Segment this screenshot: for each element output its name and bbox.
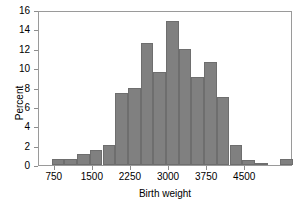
y-tick-label: 4 — [24, 122, 30, 132]
x-tick-label: 1500 — [81, 172, 103, 182]
histogram-bar — [115, 93, 128, 165]
histogram-bar — [217, 97, 230, 165]
y-tick-label: 2 — [24, 142, 30, 152]
histogram-bar — [128, 88, 141, 166]
plot-area — [38, 11, 292, 166]
x-axis-title: Birth weight — [38, 188, 292, 199]
x-tick-mark — [54, 166, 55, 170]
histogram-bar — [242, 160, 255, 165]
histogram-bar — [141, 43, 154, 165]
histogram-bar — [230, 145, 243, 165]
x-tick-label: 3000 — [157, 172, 179, 182]
histogram-bar — [103, 145, 116, 165]
x-tick-mark — [168, 166, 169, 170]
histogram-figure: Percent 0246810121416 750150022503000375… — [0, 0, 306, 205]
histogram-bar — [52, 159, 65, 165]
bars-group — [39, 12, 291, 165]
x-axis: 75015002250300037504500 — [38, 166, 292, 188]
histogram-bar — [166, 21, 179, 165]
x-tick-mark — [130, 166, 131, 170]
y-tick-label: 12 — [19, 45, 30, 55]
y-tick-label: 10 — [19, 64, 30, 74]
histogram-bar — [77, 154, 90, 165]
histogram-bar — [191, 77, 204, 165]
y-tick-label: 8 — [24, 84, 30, 94]
histogram-bar — [90, 150, 103, 166]
histogram-bar — [179, 49, 192, 165]
y-tick-label: 0 — [24, 161, 30, 171]
histogram-bar — [255, 163, 268, 165]
histogram-bar — [153, 72, 166, 165]
x-tick-label: 750 — [45, 172, 62, 182]
x-tick-mark — [92, 166, 93, 170]
histogram-bar — [204, 62, 217, 165]
x-tick-label: 4500 — [233, 172, 255, 182]
x-tick-label: 2250 — [119, 172, 141, 182]
y-tick-label: 14 — [19, 25, 30, 35]
x-tick-label: 3750 — [195, 172, 217, 182]
y-tick-label: 16 — [19, 6, 30, 16]
histogram-bar — [280, 159, 293, 165]
y-tick-label: 6 — [24, 103, 30, 113]
y-axis: 0246810121416 — [0, 0, 38, 205]
x-tick-mark — [206, 166, 207, 170]
histogram-bar — [64, 159, 77, 165]
x-tick-mark — [244, 166, 245, 170]
